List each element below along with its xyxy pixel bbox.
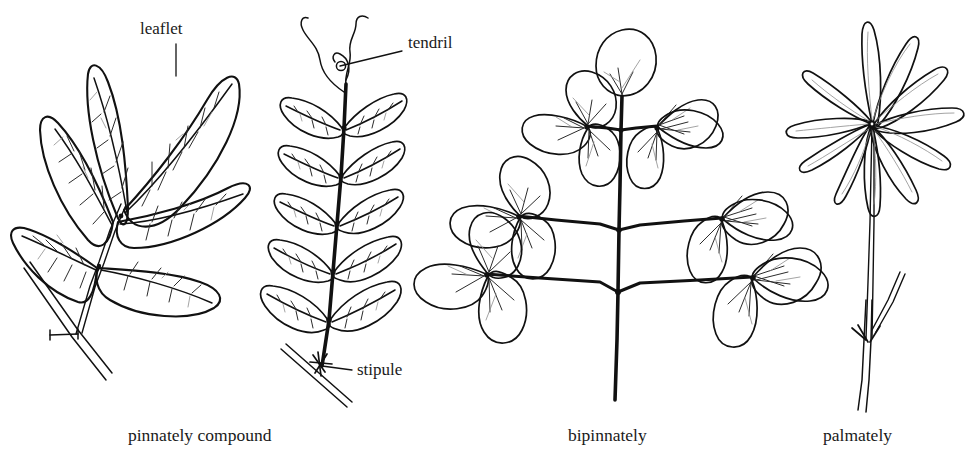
node xyxy=(484,272,490,278)
leaflet xyxy=(713,275,757,347)
annotation-label-leaflet: leaflet xyxy=(140,19,183,38)
leaflet-cluster xyxy=(627,100,723,189)
caption-bipinnately: bipinnately xyxy=(568,425,647,445)
twig xyxy=(24,262,112,380)
caption-palmately: palmately xyxy=(823,425,892,445)
annotation-label-stipule: stipule xyxy=(357,360,402,379)
node xyxy=(97,264,101,268)
node xyxy=(654,125,659,130)
leaflet xyxy=(579,124,620,186)
stipule xyxy=(852,272,905,342)
leader-tendril xyxy=(340,51,402,66)
leaflet xyxy=(596,29,656,96)
node xyxy=(719,216,725,222)
stem xyxy=(281,344,352,407)
annotation-label-tendril: tendril xyxy=(408,33,453,52)
leaflet xyxy=(469,213,521,279)
specimen-palmately xyxy=(786,22,964,412)
node xyxy=(334,221,339,226)
leaflet-cluster xyxy=(713,248,828,347)
tendril xyxy=(301,16,368,92)
leaflet xyxy=(414,264,488,309)
node xyxy=(119,214,124,219)
leaflet xyxy=(566,71,616,128)
node xyxy=(330,269,335,274)
leaf-diagram-canvas: leaflet tendril stipule pinnately compou… xyxy=(0,0,975,454)
node xyxy=(615,289,621,295)
leaflet xyxy=(87,65,128,224)
node xyxy=(338,173,343,178)
leaflet xyxy=(500,156,550,218)
node xyxy=(618,127,623,132)
hub-center xyxy=(871,123,874,126)
node xyxy=(584,124,589,129)
leaflet xyxy=(97,262,221,316)
specimen-pinnately-compound xyxy=(11,65,250,380)
node xyxy=(750,275,756,281)
leaflet xyxy=(450,206,520,248)
leaflet xyxy=(11,228,97,303)
leaflet xyxy=(752,248,821,304)
leaflet xyxy=(479,271,527,343)
leaflet-labeled xyxy=(124,77,240,227)
specimen-pinnate-with-tendril xyxy=(261,16,407,407)
specimen-bipinnately xyxy=(414,29,828,400)
node xyxy=(326,317,332,323)
node xyxy=(616,227,622,233)
leaflet xyxy=(117,183,250,248)
leader-stipule xyxy=(322,366,352,370)
leaflet xyxy=(803,71,873,125)
leaflet xyxy=(687,216,727,283)
caption-pinnately-compound: pinnately compound xyxy=(128,425,272,445)
leaflet xyxy=(862,22,881,128)
leaflet-cluster xyxy=(414,213,527,343)
leaflet-cluster xyxy=(687,192,792,283)
stem xyxy=(858,300,872,412)
node xyxy=(341,125,346,130)
leaflet xyxy=(657,100,718,149)
petiole xyxy=(866,126,874,338)
botanical-figure: leaflet tendril stipule pinnately compou… xyxy=(0,0,975,454)
leaflet xyxy=(512,213,556,279)
node xyxy=(516,214,522,220)
leaflet xyxy=(40,117,113,246)
